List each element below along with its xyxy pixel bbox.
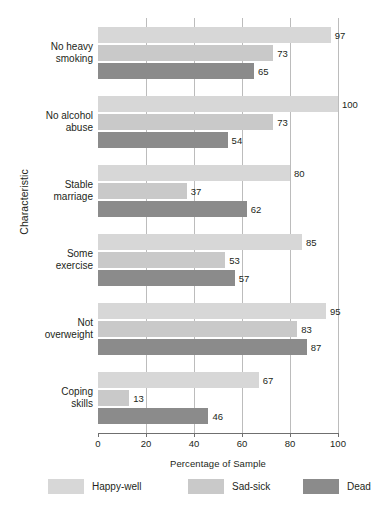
x-axis-tick-label: 60 [222,438,262,449]
category-label-line: skills [7,398,93,410]
bar-value-label: 85 [306,237,317,248]
category-label: Copingskills [7,386,93,410]
x-axis-tick [98,433,99,437]
bar-group: 855357 [98,226,338,295]
bar-dead[interactable]: 54 [98,132,228,148]
category-label-line: abuse [7,122,93,134]
bar-sad-sick[interactable]: 13 [98,390,129,406]
category-label: Someexercise [7,248,93,272]
x-axis-tick-label: 20 [126,438,166,449]
bar-value-label: 65 [258,65,269,76]
x-axis-tick-label: 0 [78,438,118,449]
bar-happy-well[interactable]: 95 [98,303,326,319]
bar-group: 803762 [98,156,338,225]
bar-sad-sick[interactable]: 37 [98,183,187,199]
category-label: No heavysmoking [7,41,93,65]
bar-dead[interactable]: 62 [98,201,247,217]
legend-swatch [303,479,339,494]
legend-label: Happy-well [92,481,141,492]
bar-dead[interactable]: 46 [98,408,208,424]
bar-value-label: 73 [277,116,288,127]
bar-group: 1007354 [98,87,338,156]
x-axis-tick [290,433,291,437]
bar-dead[interactable]: 57 [98,270,235,286]
bar-value-label: 54 [232,134,243,145]
bar-happy-well[interactable]: 100 [98,96,338,112]
category-label-line: Some [7,248,93,260]
bar-value-label: 97 [335,29,346,40]
bar-value-label: 57 [239,273,250,284]
bar-happy-well[interactable]: 67 [98,372,259,388]
legend-label: Dead [347,481,371,492]
bar-value-label: 87 [311,342,322,353]
legend-item-dead[interactable]: Dead [303,478,371,494]
category-label-line: Not [7,317,93,329]
bar-value-label: 80 [294,167,305,178]
bar-value-label: 83 [301,324,312,335]
legend-label: Sad-sick [232,481,270,492]
x-axis-tick [194,433,195,437]
x-axis-tick-label: 100 [318,438,358,449]
legend-item-sad-sick[interactable]: Sad-sick [188,478,270,494]
bar-value-label: 62 [251,203,262,214]
bar-value-label: 53 [229,255,240,266]
x-axis-tick-label: 40 [174,438,214,449]
x-axis-line [98,433,339,434]
bar-sad-sick[interactable]: 83 [98,321,297,337]
bar-chart: Characteristic 9773651007354803762855357… [0,0,383,526]
legend-swatch [48,479,84,494]
bar-value-label: 95 [330,306,341,317]
bar-value-label: 46 [212,411,223,422]
bar-happy-well[interactable]: 80 [98,165,290,181]
x-axis-tick [338,433,339,437]
bar-sad-sick[interactable]: 73 [98,114,273,130]
bar-value-label: 37 [191,185,202,196]
category-label-line: Stable [7,179,93,191]
category-label-line: marriage [7,191,93,203]
bar-value-label: 73 [277,47,288,58]
category-label-line: exercise [7,260,93,272]
bar-sad-sick[interactable]: 53 [98,252,225,268]
category-label-line: No alcohol [7,110,93,122]
category-label-line: smoking [7,53,93,65]
bar-sad-sick[interactable]: 73 [98,45,273,61]
bar-happy-well[interactable]: 85 [98,234,302,250]
category-label-line: Coping [7,386,93,398]
category-label: Stablemarriage [7,179,93,203]
gridline [338,18,339,433]
legend-item-happy-well[interactable]: Happy-well [48,478,141,494]
bar-group: 958387 [98,295,338,364]
bar-value-label: 13 [133,393,144,404]
bar-dead[interactable]: 87 [98,339,307,355]
category-label-line: No heavy [7,41,93,53]
plot-area: 9773651007354803762855357958387671346 [98,18,338,433]
bar-value-label: 67 [263,375,274,386]
x-axis-tick [242,433,243,437]
legend-swatch [188,479,224,494]
bar-dead[interactable]: 65 [98,63,254,79]
x-axis-tick [146,433,147,437]
category-label: Notoverweight [7,317,93,341]
bar-group: 671346 [98,364,338,433]
category-label: No alcoholabuse [7,110,93,134]
chart-legend: Happy-wellSad-sickDead [0,478,383,498]
x-axis-title: Percentage of Sample [98,458,338,469]
bar-happy-well[interactable]: 97 [98,27,331,43]
bar-group: 977365 [98,18,338,87]
bar-value-label: 100 [342,98,358,109]
x-axis-tick-label: 80 [270,438,310,449]
category-label-line: overweight [7,329,93,341]
